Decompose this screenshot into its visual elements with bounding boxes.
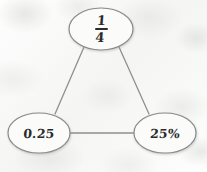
node-label-decimal: 0.25 bbox=[6, 113, 71, 153]
concept-map-canvas: 1 4 0.25 25% bbox=[0, 0, 207, 172]
fraction-numerator: 1 bbox=[96, 14, 107, 27]
fraction-one-quarter: 1 4 bbox=[93, 14, 109, 45]
node-label-percent: 25% bbox=[132, 113, 197, 153]
decimal-value-text: 0.25 bbox=[23, 126, 56, 141]
node-label-fraction: 1 4 bbox=[67, 8, 135, 50]
percent-value-text: 25% bbox=[149, 126, 180, 141]
fraction-denominator: 4 bbox=[95, 31, 106, 44]
